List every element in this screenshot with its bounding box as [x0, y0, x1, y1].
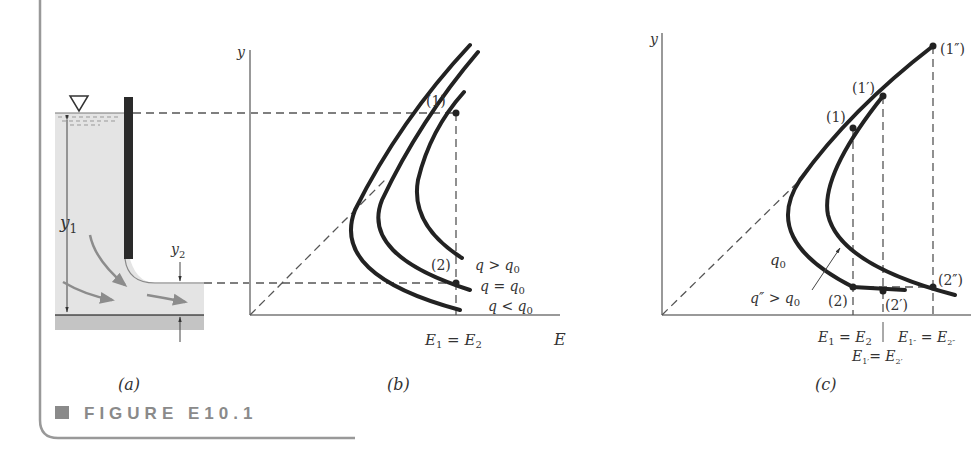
point-1	[453, 110, 460, 117]
y-axis-label: y	[236, 44, 246, 60]
curve-label-equal: q = q0	[480, 278, 525, 296]
panel-b: y E (1) (2) q > q0 q = q0 q < q0 E1 = E2…	[236, 44, 566, 394]
curve-q-double-prime-label: q″ > q0	[750, 290, 800, 308]
panel-a-label: (a)	[118, 375, 140, 394]
point-1-label: (1)	[826, 109, 846, 125]
channel-bed	[55, 315, 204, 330]
figure-canvas: y1 y2 (a) y E (1) (2) q > q0 q = q0 q < …	[0, 0, 971, 476]
curve-q-greater-q0	[417, 92, 464, 258]
x-axis-label: E	[553, 330, 566, 349]
sluice-gate	[124, 97, 133, 259]
point-2-double-prime	[930, 284, 937, 291]
energy-equality-label: E1 = E2	[424, 331, 482, 350]
y-axis-label: y	[649, 31, 659, 47]
energy-eq-1-label: E1 = E2	[817, 329, 872, 347]
panel-b-label: (b)	[387, 375, 410, 394]
point-1-prime	[880, 93, 887, 100]
curve-label-greater: q > q0	[475, 257, 520, 275]
point-1-double-prime	[930, 43, 937, 50]
energy-eq-p-label: E1′= E2′	[851, 348, 903, 366]
panel-a: y1 y2 (a)	[55, 96, 204, 394]
leader-arrow	[812, 248, 840, 290]
point-2-label: (2)	[431, 257, 451, 273]
point-1	[850, 125, 857, 132]
curve-q-equal-q0	[378, 52, 478, 290]
panel-c-label: (c)	[815, 375, 836, 394]
point-1-prime-label: (1′)	[852, 80, 875, 96]
point-2	[850, 284, 857, 291]
upstream-water	[55, 113, 127, 295]
point-2-prime	[880, 288, 887, 295]
figure-caption: FIGURE E10.1	[84, 404, 257, 423]
point-2	[453, 280, 460, 287]
point-2-double-prime-label: (2″)	[938, 272, 963, 288]
critical-depth-line	[250, 180, 385, 315]
y2-label: y2	[170, 241, 185, 260]
energy-eq-pp-label: E1″ = E2″	[897, 329, 955, 347]
caption-marker-icon	[55, 406, 69, 419]
curve-label-less: q < q0	[488, 298, 533, 316]
point-1-double-prime-label: (1″)	[940, 41, 965, 57]
point-2-label: (2)	[828, 293, 848, 309]
curve-q0-label: q0	[770, 251, 786, 270]
panel-c: y (1) (1′) (1″) (2) (2′) (2″) q0 q″ > q0…	[649, 31, 971, 394]
point-1-label: (1)	[426, 93, 446, 109]
point-2-prime-label: (2′)	[885, 297, 908, 313]
free-surface-icon	[70, 96, 88, 111]
